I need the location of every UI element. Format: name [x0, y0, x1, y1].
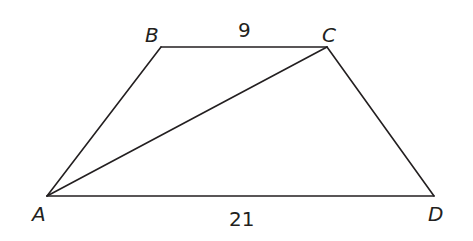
- trapezoid-diagram: A B C D 9 21: [0, 0, 473, 241]
- measurement-ad: 21: [229, 207, 254, 231]
- measurement-bc: 9: [238, 18, 251, 42]
- vertex-label-d: D: [428, 202, 443, 226]
- vertex-label-a: A: [30, 202, 46, 226]
- edge-cd: [327, 47, 434, 196]
- diagonal-ac: [47, 47, 327, 196]
- edge-ab: [47, 47, 161, 196]
- vertex-label-b: B: [145, 23, 159, 47]
- vertex-label-c: C: [322, 23, 336, 47]
